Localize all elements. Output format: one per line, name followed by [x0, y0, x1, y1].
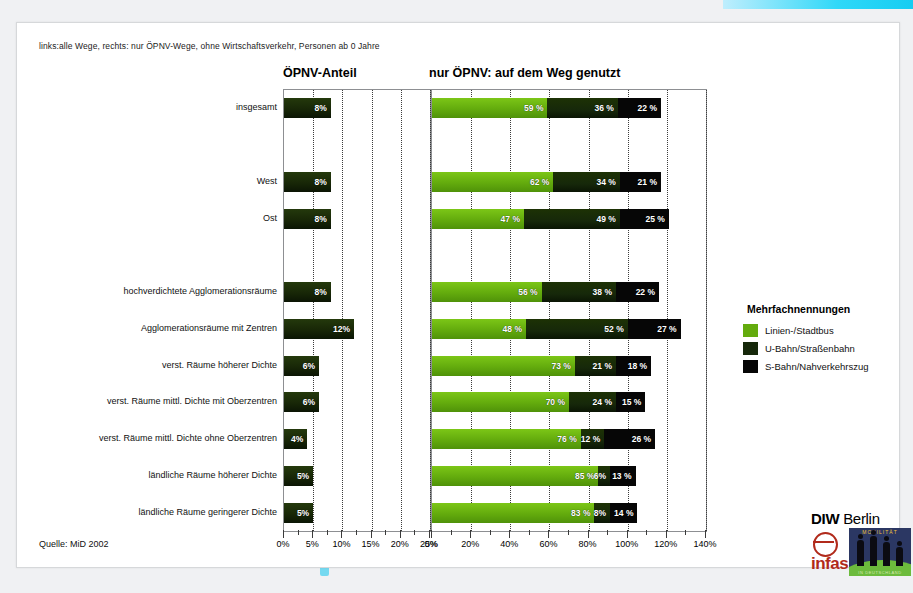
- legend-item: Linien-/Stadtbus: [743, 324, 913, 337]
- bar: 62 %34 %21 %: [432, 172, 661, 192]
- bar-value-label: 15 %: [622, 397, 645, 407]
- bar-value-label: 21 %: [593, 361, 616, 371]
- axis-tick-label: 5%: [306, 539, 319, 549]
- bar-value-label: 34 %: [596, 177, 619, 187]
- bar-segment: 48 %: [432, 319, 526, 339]
- bar-segment: 36 %: [547, 98, 617, 118]
- bar: 48 %52 %27 %: [432, 319, 681, 339]
- bar: 5%: [284, 466, 313, 486]
- bar-segment: 8%: [594, 503, 610, 523]
- bar-value-label: 18 %: [628, 361, 651, 371]
- figure-icon: [870, 536, 877, 566]
- right-panel-title: nur ÖPNV: auf dem Weg genutzt: [429, 66, 620, 80]
- mobilitaet-in-deutschland-logo: MOBILITÄT IN DEUTSCHLAND: [849, 528, 911, 576]
- axis-tick-label: 40%: [500, 539, 518, 549]
- bar-value-label: 59 %: [524, 103, 547, 113]
- source-note: Quelle: MiD 2002: [39, 539, 109, 549]
- bar-segment: 8%: [284, 282, 331, 302]
- axis-tick-label: 60%: [539, 539, 557, 549]
- axis-tick-label: 20%: [391, 539, 409, 549]
- bar: 8%: [284, 209, 331, 229]
- bar-value-label: 24 %: [593, 397, 616, 407]
- axis-tick-minor: [356, 530, 357, 535]
- bar-segment: 85 %: [432, 466, 598, 486]
- legend: Mehrfachnennungen Linien-/StadtbusU-Bahn…: [743, 303, 913, 378]
- axis-tick-minor: [385, 530, 386, 535]
- axis-tick-major: [588, 530, 589, 538]
- axis-tick-minor: [414, 530, 415, 535]
- axis-tick-major: [312, 530, 313, 538]
- bar-segment: 4%: [284, 429, 307, 449]
- axis-tick-major: [431, 530, 432, 538]
- bar-value-label: 6%: [594, 471, 610, 481]
- bar-segment: 70 %: [432, 392, 569, 412]
- bar-value-label: 12 %: [581, 434, 604, 444]
- legend-label: U-Bahn/Straßenbahn: [765, 343, 855, 354]
- bar-value-label: 6%: [303, 397, 319, 407]
- figure-icon: [857, 540, 864, 566]
- category-label: ländliche Räume höherer Dichte: [148, 470, 277, 480]
- axis-tick-label: 120%: [654, 539, 677, 549]
- bar-segment: 8%: [284, 98, 331, 118]
- publisher-logos: DIW Berlin infas MOBILITÄT IN DEUTSCHLAN…: [807, 510, 913, 578]
- axis-tick-major: [371, 530, 372, 538]
- axis-tick-minor: [490, 530, 491, 535]
- axis-tick-major: [627, 530, 628, 538]
- bar-value-label: 4%: [291, 434, 307, 444]
- bar: 70 %24 %15 %: [432, 392, 645, 412]
- bar-value-label: 8%: [314, 103, 330, 113]
- bar: 5%: [284, 503, 313, 523]
- bar-segment: 13 %: [610, 466, 635, 486]
- axis-tick-label: 140%: [693, 539, 716, 549]
- legend-swatch: [743, 324, 758, 337]
- left-panel-title: ÖPNV-Anteil: [283, 66, 357, 80]
- bar-segment: 12%: [284, 319, 354, 339]
- bar: 4%: [284, 429, 307, 449]
- axis-tick-label: 0%: [276, 539, 289, 549]
- cyan-accent-strip: [723, 0, 913, 9]
- bar-segment: 56 %: [432, 282, 542, 302]
- bar-segment: 6%: [284, 356, 319, 376]
- axis-tick-major: [705, 530, 706, 538]
- axis-tick-major: [666, 530, 667, 538]
- bar-value-label: 38 %: [593, 287, 616, 297]
- bar-value-label: 22 %: [638, 103, 661, 113]
- bar: 83 %8%14 %: [432, 503, 637, 523]
- bar-value-label: 26 %: [632, 434, 655, 444]
- bar-segment: 73 %: [432, 356, 575, 376]
- gridline: [706, 90, 707, 531]
- axis-tick-major: [509, 530, 510, 538]
- axis-tick-major: [283, 530, 284, 538]
- category-label: insgesamt: [236, 102, 277, 112]
- right-x-axis: 0%20%40%60%80%100%120%140%: [431, 530, 705, 552]
- axis-tick-minor: [298, 530, 299, 535]
- bar-segment: 38 %: [542, 282, 616, 302]
- bar-value-label: 48 %: [503, 324, 526, 334]
- bar-value-label: 12%: [333, 324, 354, 334]
- bar-segment: 15 %: [616, 392, 645, 412]
- bar-value-label: 6%: [303, 361, 319, 371]
- axis-tick-major: [341, 530, 342, 538]
- category-label: ländliche Räume geringerer Dichte: [138, 507, 277, 517]
- axis-tick-label: 0%: [424, 539, 437, 549]
- bar-segment: 24 %: [569, 392, 616, 412]
- bar-value-label: 13 %: [612, 471, 635, 481]
- bar-value-label: 83 %: [571, 508, 594, 518]
- bar-value-label: 49 %: [597, 214, 620, 224]
- bar-segment: 8%: [284, 172, 331, 192]
- axis-tick-minor: [568, 530, 569, 535]
- left-plot-area: 8%8%8%8%12%6%6%4%5%5%: [283, 89, 431, 532]
- axis-tick-label: 15%: [362, 539, 380, 549]
- infas-logo: infas: [811, 554, 848, 574]
- axis-tick-minor: [451, 530, 452, 535]
- bar-segment: 22 %: [618, 98, 661, 118]
- bar-segment: 59 %: [432, 98, 547, 118]
- bar: 8%: [284, 282, 331, 302]
- screenshot-canvas: links:alle Wege, rechts: nur ÖPNV-Wege, …: [0, 0, 913, 593]
- gridline: [313, 90, 314, 531]
- bar: 59 %36 %22 %: [432, 98, 661, 118]
- axis-tick-major: [400, 530, 401, 538]
- category-label: verst. Räume mittl. Dichte mit Oberzentr…: [107, 396, 277, 406]
- bar-segment: 27 %: [628, 319, 681, 339]
- axis-tick-label: 100%: [615, 539, 638, 549]
